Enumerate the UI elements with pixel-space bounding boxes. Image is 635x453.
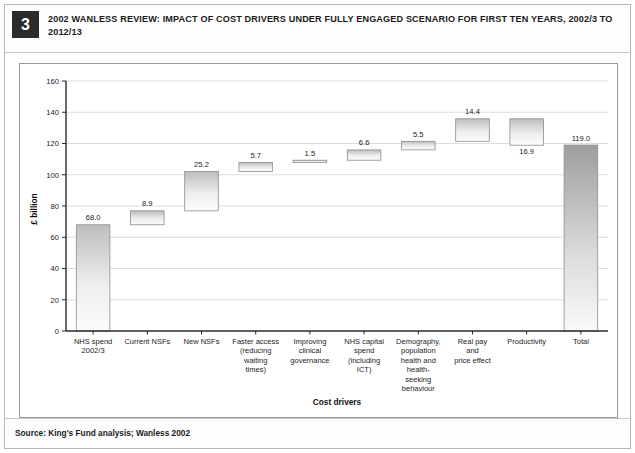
category-label-line: 2002/3 xyxy=(82,346,105,355)
bar xyxy=(456,119,490,142)
category-label-line: behaviour xyxy=(402,384,435,393)
bar-value-label: 8.9 xyxy=(142,199,153,208)
x-axis-category-labels: NHS spend2002/3Current NSFsNew NSFsFaste… xyxy=(74,337,589,393)
chart-panel: 020406080100120140160 68.08.925.25.71.56… xyxy=(19,63,618,418)
category-label-line: Total xyxy=(573,337,589,346)
svg-text:0: 0 xyxy=(55,327,59,336)
waterfall-chart: 020406080100120140160 68.08.925.25.71.56… xyxy=(20,64,617,417)
svg-text:160: 160 xyxy=(46,77,59,86)
gridlines xyxy=(66,81,608,300)
category-label-line: and xyxy=(466,346,479,355)
category-label-line: times) xyxy=(245,365,266,374)
category-label-line: governance xyxy=(290,356,329,365)
bar-value-label: 16.9 xyxy=(519,147,534,156)
bar xyxy=(185,171,219,210)
bar xyxy=(293,160,327,162)
category-label-line: New NSFs xyxy=(184,337,220,346)
bar xyxy=(76,225,110,331)
source-text: Source: King's Fund analysis; Wanless 20… xyxy=(15,428,190,438)
category-label-line: price effect xyxy=(454,356,491,365)
figure-number-badge: 3 xyxy=(12,11,39,38)
category-label-line: (including xyxy=(348,356,380,365)
figure-frame: 3 2002 WANLESS REVIEW: IMPACT OF COST DR… xyxy=(4,4,631,449)
category-label-line: Current NSFs xyxy=(124,337,170,346)
bar xyxy=(131,211,165,225)
svg-text:120: 120 xyxy=(46,139,59,148)
bar-value-label: 68.0 xyxy=(86,213,101,222)
bar xyxy=(510,119,544,145)
category-label-line: (reducing xyxy=(240,346,271,355)
category-label-line: clinical xyxy=(299,346,322,355)
category-label-line: spend xyxy=(354,346,374,355)
category-label-line: Demography, xyxy=(396,337,440,346)
category-label-line: NHS spend xyxy=(74,337,112,346)
svg-text:100: 100 xyxy=(46,171,59,180)
source-bar: Source: King's Fund analysis; Wanless 20… xyxy=(5,418,630,448)
svg-text:60: 60 xyxy=(51,233,59,242)
category-label-line: Productivity xyxy=(507,337,546,346)
bar xyxy=(347,150,381,160)
bar-value-label: 5.7 xyxy=(250,151,261,160)
y-axis-tick-labels: 020406080100120140160 xyxy=(46,77,59,336)
category-label-line: ICT) xyxy=(357,365,372,374)
bar xyxy=(564,145,598,331)
bar-value-label: 5.5 xyxy=(413,130,424,139)
bar-value-label: 1.5 xyxy=(305,149,316,158)
bar-value-label: 119.0 xyxy=(572,134,590,143)
bar-value-label: 25.2 xyxy=(194,160,209,169)
bar xyxy=(402,141,436,150)
category-label-line: health and xyxy=(401,356,436,365)
category-label-line: population xyxy=(401,346,436,355)
chart-svg: 020406080100120140160 68.08.925.25.71.56… xyxy=(20,64,617,417)
svg-text:80: 80 xyxy=(51,202,59,211)
category-label-line: health- xyxy=(407,365,430,374)
x-axis-title: Cost drivers xyxy=(313,397,362,407)
category-label-line: Real pay xyxy=(458,337,488,346)
category-label-line: Improving xyxy=(293,337,326,346)
y-axis-title: £ billion xyxy=(29,193,39,224)
svg-text:20: 20 xyxy=(51,296,59,305)
category-label-line: NHS capital xyxy=(344,337,384,346)
svg-text:140: 140 xyxy=(46,108,59,117)
bar-value-label: 14.4 xyxy=(465,107,480,116)
category-label-line: waiting xyxy=(243,356,267,365)
svg-text:40: 40 xyxy=(51,264,59,273)
category-label-line: seeking xyxy=(405,375,431,384)
bar-value-label: 6.6 xyxy=(359,138,370,147)
figure-header: 3 2002 WANLESS REVIEW: IMPACT OF COST DR… xyxy=(5,5,630,53)
category-label-line: Faster access xyxy=(232,337,279,346)
bar xyxy=(239,163,273,172)
figure-title: 2002 WANLESS REVIEW: IMPACT OF COST DRIV… xyxy=(48,13,620,39)
